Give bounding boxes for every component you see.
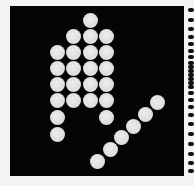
dot xyxy=(83,45,98,60)
dot xyxy=(50,110,65,125)
dot xyxy=(66,93,81,108)
perforation-mark xyxy=(188,35,194,39)
dot xyxy=(50,127,65,142)
dot xyxy=(50,93,65,108)
perforation-mark xyxy=(188,152,194,156)
dot xyxy=(66,61,81,76)
dot xyxy=(50,45,65,60)
perforation-mark xyxy=(188,91,194,95)
perforation-mark xyxy=(188,132,194,136)
dot xyxy=(138,107,153,122)
dot xyxy=(83,77,98,92)
dot xyxy=(99,45,114,60)
dot xyxy=(114,130,129,145)
dot xyxy=(99,110,114,125)
dot xyxy=(83,93,98,108)
perforation-mark xyxy=(188,122,194,126)
perforation-mark xyxy=(188,8,194,12)
perforation-mark xyxy=(188,27,194,31)
perforation-mark xyxy=(188,85,194,89)
dot xyxy=(99,77,114,92)
dot xyxy=(50,61,65,76)
perforation-mark xyxy=(188,42,194,46)
perforation-mark xyxy=(188,161,194,165)
perforation-mark xyxy=(188,142,194,146)
perforation-mark xyxy=(188,18,194,22)
image-panel xyxy=(10,6,184,176)
dot xyxy=(83,29,98,44)
dot xyxy=(50,77,65,92)
dot xyxy=(83,13,98,28)
perforation-mark xyxy=(188,105,194,109)
dot xyxy=(103,142,118,157)
perforation-mark xyxy=(188,55,194,59)
dot xyxy=(66,29,81,44)
dot xyxy=(99,93,114,108)
perforation-mark xyxy=(188,49,194,53)
perforation-mark xyxy=(188,169,194,173)
dot xyxy=(126,119,141,134)
dot xyxy=(83,61,98,76)
dot xyxy=(150,95,165,110)
dot xyxy=(66,45,81,60)
dot xyxy=(99,29,114,44)
dot xyxy=(99,61,114,76)
dot xyxy=(90,154,105,169)
perforation-mark xyxy=(188,98,194,102)
dot xyxy=(66,77,81,92)
perforation-mark xyxy=(188,113,194,117)
